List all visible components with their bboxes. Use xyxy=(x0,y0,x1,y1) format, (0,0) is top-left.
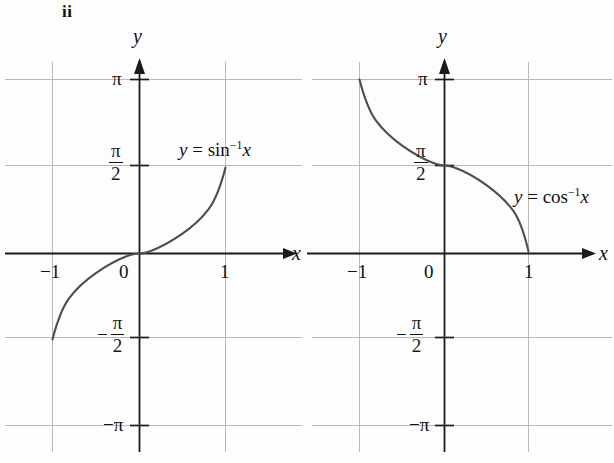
arcsin-y-axis-label: y xyxy=(133,26,142,46)
arcsin-ytick-neg-pi-over-2-den: 2 xyxy=(110,335,126,356)
bottom-cutoff-glyph: π xyxy=(70,455,80,463)
arcsin-xtick-0: 0 xyxy=(119,262,129,281)
arcsin-ytick-pi: π xyxy=(112,69,122,88)
arcsin-curve-label-exp: −1 xyxy=(230,139,243,152)
arcsin-ytick-neg-pi-over-2-num: π xyxy=(110,313,126,334)
arcsin-curve-label-eq: = xyxy=(192,139,203,160)
arcsin-gridlines xyxy=(5,62,302,452)
arccos-curve-label-fn: cos xyxy=(543,186,568,207)
arcsin-xtick-neg-1: −1 xyxy=(40,262,60,281)
arccos-xtick-1: 1 xyxy=(524,262,534,281)
arcsin-curve-label-arg: x xyxy=(242,139,250,160)
inverse-trig-graphs-figure: ii y x π π 2 − π 2 −π −1 0 1 y = sin−1x … xyxy=(0,0,614,463)
arccos-curve-label-exp: −1 xyxy=(568,186,581,199)
arcsin-xtick-1: 1 xyxy=(220,262,230,281)
arccos-ytick-pi: π xyxy=(418,69,428,88)
part-label: ii xyxy=(62,3,72,20)
arcsin-ytick-neg-pi: −π xyxy=(103,415,123,434)
arccos-y-axis xyxy=(439,58,450,452)
arcsin-curve-label-fn: sin xyxy=(208,139,230,160)
arcsin-ytick-pi-over-2-num: π xyxy=(108,141,124,162)
arccos-ytick-neg-pi-over-2-num: π xyxy=(409,313,425,334)
arcsin-ytick-neg-pi-over-2-sign: − xyxy=(97,325,110,344)
arccos-ytick-neg-pi-over-2-den: 2 xyxy=(409,335,425,356)
arccos-curve-label-eq: = xyxy=(527,186,538,207)
arccos-curve-label: y = cos−1x xyxy=(514,187,589,206)
arcsin-plot xyxy=(0,0,307,463)
arccos-x-axis-label: x xyxy=(599,243,608,263)
arccos-gridlines xyxy=(312,62,612,452)
arccos-ytick-pi-over-2-num: π xyxy=(413,141,429,162)
arccos-ytick-neg-pi-over-2: − π 2 xyxy=(396,313,424,356)
arccos-y-axis-label: y xyxy=(438,26,447,46)
arcsin-ytick-neg-pi-over-2: − π 2 xyxy=(97,313,125,356)
arccos-ytick-neg-pi: −π xyxy=(409,415,429,434)
arcsin-ytick-pi-over-2-den: 2 xyxy=(108,163,124,184)
arccos-ytick-pi-over-2: π 2 xyxy=(413,141,429,184)
arccos-ytick-neg-pi-over-2-sign: − xyxy=(396,325,409,344)
arccos-plot xyxy=(307,0,614,463)
arccos-xtick-0: 0 xyxy=(424,262,434,281)
arcsin-x-axis-label: x xyxy=(292,243,301,263)
arcsin-x-axis xyxy=(5,248,297,259)
arccos-x-axis xyxy=(307,248,596,259)
arccos-curve-label-arg: x xyxy=(581,186,589,207)
arcsin-curve-label: y = sin−1x xyxy=(179,140,251,159)
arcsin-y-axis xyxy=(134,58,145,452)
arcsin-ytick-pi-over-2: π 2 xyxy=(108,141,124,184)
arccos-xtick-neg-1: −1 xyxy=(347,262,367,281)
arccos-ytick-pi-over-2-den: 2 xyxy=(413,163,429,184)
